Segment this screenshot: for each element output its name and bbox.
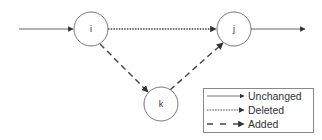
legend-added-label: Added bbox=[248, 118, 279, 130]
edge-i-to-k-added bbox=[100, 44, 148, 92]
node-k-label: k bbox=[159, 99, 164, 109]
diagram-canvas: i j k Unchanged Deleted Added bbox=[0, 0, 322, 140]
legend-unchanged-label: Unchanged bbox=[248, 90, 302, 102]
node-i: i bbox=[74, 12, 108, 46]
node-j: j bbox=[217, 12, 251, 46]
edge-k-to-j-added bbox=[170, 43, 223, 90]
node-i-label: i bbox=[90, 24, 92, 34]
node-j-label: j bbox=[232, 24, 235, 34]
legend: Unchanged Deleted Added bbox=[204, 89, 314, 133]
legend-deleted-label: Deleted bbox=[248, 104, 284, 116]
node-k: k bbox=[144, 87, 178, 121]
